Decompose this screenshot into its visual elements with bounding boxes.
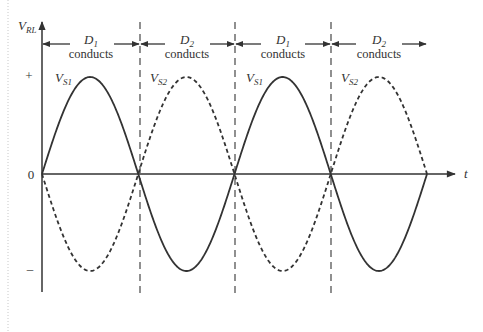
interval-label-3: D1 conducts — [261, 32, 306, 61]
y-axis-label: VRL — [18, 18, 36, 35]
svg-text:conducts: conducts — [357, 47, 402, 61]
curve-label-vs2: VS2 — [150, 70, 167, 87]
y-tick-zero: 0 — [28, 167, 35, 182]
svg-text:conducts: conducts — [165, 47, 210, 61]
svg-text:conducts: conducts — [69, 47, 114, 61]
y-tick-minus: – — [26, 261, 34, 276]
full-wave-rectifier-waveform-diagram: VRL t + 0 – D1 conducts D2 conducts D1 c… — [0, 0, 483, 332]
x-axis-label: t — [464, 166, 468, 181]
interval-label-1: D1 conducts — [69, 32, 114, 61]
curve-label-vs2: VS2 — [341, 70, 358, 87]
curve-label-vs1: VS1 — [55, 70, 72, 87]
svg-text:conducts: conducts — [261, 47, 306, 61]
interval-label-4: D2 conducts — [357, 32, 402, 61]
curve-label-vs1: VS1 — [246, 70, 263, 87]
y-tick-plus: + — [25, 68, 32, 83]
interval-label-2: D2 conducts — [165, 32, 210, 61]
